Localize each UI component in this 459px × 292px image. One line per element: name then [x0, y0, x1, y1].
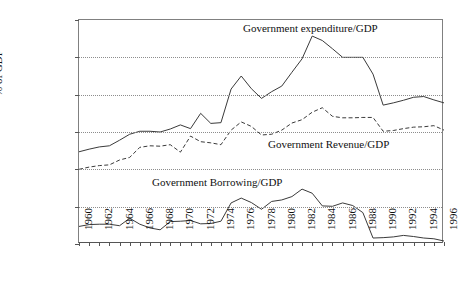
x-tickmark-1967: [150, 242, 151, 246]
x-tickmark-1965: [130, 242, 131, 246]
x-tick-label-1962: 1962: [102, 208, 114, 230]
x-tick-label-1964: 1964: [123, 208, 135, 230]
x-tick-label-1990: 1990: [386, 208, 398, 230]
gridline-40: [79, 95, 442, 96]
x-tickmark-1970: [180, 242, 181, 246]
x-tickmark-1969: [170, 242, 171, 246]
x-tick-label-1974: 1974: [224, 208, 236, 230]
y-tickmark-20: [75, 169, 79, 170]
x-tick-label-1978: 1978: [265, 208, 277, 230]
x-tickmark-1989: [373, 242, 374, 246]
x-tickmark-1983: [312, 242, 313, 246]
y-tickmark-10: [75, 207, 79, 208]
x-tickmark-1974: [221, 242, 222, 246]
x-tick-label-1994: 1994: [427, 208, 439, 230]
x-tickmark-1993: [414, 242, 415, 246]
x-tickmark-1977: [251, 242, 252, 246]
x-tickmark-1981: [292, 242, 293, 246]
x-tick-label-1968: 1968: [163, 208, 175, 230]
gridline-30: [79, 132, 442, 133]
x-tickmark-1964: [120, 242, 121, 246]
annotation-expenditure: Government expenditure/GDP: [243, 22, 378, 34]
x-tick-label-1996: 1996: [447, 208, 459, 230]
x-tickmark-1984: [322, 242, 323, 246]
x-tickmark-1973: [211, 242, 212, 246]
x-tick-label-1980: 1980: [285, 208, 297, 230]
x-tickmark-1990: [383, 242, 384, 246]
x-tick-label-1982: 1982: [305, 208, 317, 230]
x-tick-label-1984: 1984: [325, 208, 337, 230]
x-tickmark-1961: [89, 242, 90, 246]
x-tick-label-1972: 1972: [204, 208, 216, 230]
y-tickmark-40: [75, 95, 79, 96]
x-tick-label-1970: 1970: [183, 208, 195, 230]
y-tickmark-30: [75, 132, 79, 133]
x-tickmark-1980: [282, 242, 283, 246]
x-tick-label-1966: 1966: [143, 208, 155, 230]
annotation-revenue: Government Revenue/GDP: [268, 138, 389, 150]
x-tickmark-1976: [241, 242, 242, 246]
cropped-title: [0, 0, 455, 9]
x-tick-label-1960: 1960: [82, 208, 94, 230]
y-tickmark-60: [75, 20, 79, 21]
x-tickmark-1975: [231, 242, 232, 246]
gridline-20: [79, 169, 442, 170]
x-tickmark-1994: [424, 242, 425, 246]
x-tick-label-1988: 1988: [366, 208, 378, 230]
x-tickmark-1988: [363, 242, 364, 246]
y-axis-label: % of GDP: [0, 50, 4, 96]
x-tickmark-1962: [99, 242, 100, 246]
x-tickmark-1982: [302, 242, 303, 246]
x-tickmark-1991: [393, 242, 394, 246]
x-tickmark-1996: [444, 242, 445, 246]
x-tickmark-1968: [160, 242, 161, 246]
x-tick-label-1986: 1986: [346, 208, 358, 230]
x-tick-label-1992: 1992: [406, 208, 418, 230]
x-tickmark-1960: [79, 242, 80, 246]
x-tickmark-1972: [201, 242, 202, 246]
x-tickmark-1995: [434, 242, 435, 246]
annotation-borrowing: Government Borrowing/GDP: [152, 176, 282, 188]
x-tickmark-1979: [272, 242, 273, 246]
x-tickmark-1963: [109, 242, 110, 246]
x-tick-label-1976: 1976: [244, 208, 256, 230]
x-tickmark-1986: [343, 242, 344, 246]
gridline-50: [79, 57, 442, 58]
x-tickmark-1992: [403, 242, 404, 246]
x-tickmark-1987: [353, 242, 354, 246]
x-tickmark-1985: [332, 242, 333, 246]
x-tickmark-1971: [191, 242, 192, 246]
x-tickmark-1966: [140, 242, 141, 246]
y-tickmark-50: [75, 57, 79, 58]
x-tickmark-1978: [262, 242, 263, 246]
